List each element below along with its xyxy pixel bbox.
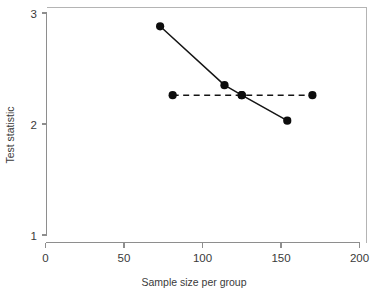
data-point-marker xyxy=(283,117,291,125)
y-axis: 3 2 1 Test statistic xyxy=(4,8,47,242)
data-point-marker xyxy=(238,91,246,99)
chart-svg: 3 2 1 Test statistic 0 50 100 150 200 Sa… xyxy=(0,0,374,295)
y-tick-label-1: 1 xyxy=(31,230,37,242)
y-axis-title: Test statistic xyxy=(4,106,16,163)
x-axis: 0 50 100 150 200 Sample size per group xyxy=(42,243,369,289)
x-tick-label-100: 100 xyxy=(193,252,212,264)
x-tick-label-0: 0 xyxy=(42,252,48,264)
data-point-marker xyxy=(169,91,177,99)
data-point-marker xyxy=(156,22,164,30)
plot-frame xyxy=(47,8,367,243)
x-tick-label-150: 150 xyxy=(271,252,290,264)
data-series-layer xyxy=(156,22,316,125)
x-axis-title: Sample size per group xyxy=(141,276,246,288)
y-tick-label-3: 3 xyxy=(31,8,37,20)
chart-container: 3 2 1 Test statistic 0 50 100 150 200 Sa… xyxy=(0,0,374,295)
data-point-marker xyxy=(308,91,316,99)
series-line-decreasing-test-statistic xyxy=(160,26,287,120)
frame-top-right xyxy=(47,8,367,243)
y-tick-label-2: 2 xyxy=(31,119,37,131)
x-tick-label-200: 200 xyxy=(350,252,369,264)
data-point-marker xyxy=(220,81,228,89)
x-tick-label-50: 50 xyxy=(118,252,131,264)
